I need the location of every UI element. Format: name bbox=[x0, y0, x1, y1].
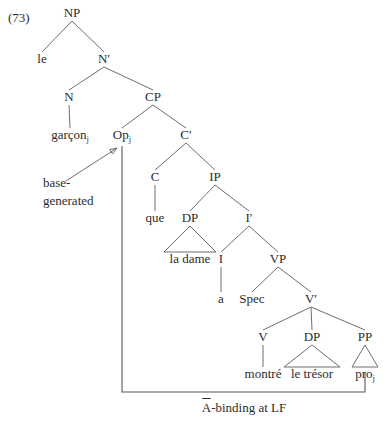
triangle-dp2 bbox=[284, 345, 340, 367]
tree-node-v: V bbox=[258, 329, 268, 344]
branch-cbar-to-c bbox=[155, 143, 186, 170]
tree-node-c: C bbox=[151, 169, 160, 184]
node-label-text: C bbox=[151, 169, 160, 184]
tree-node-i: I bbox=[219, 251, 223, 266]
binding-caption: A-binding at LF bbox=[202, 400, 287, 415]
tree-node-np: NP bbox=[64, 5, 81, 20]
base-generated-arrowhead bbox=[110, 148, 117, 154]
node-label-text: la dame bbox=[170, 251, 211, 266]
branch-cp-to-op bbox=[122, 105, 153, 128]
tree-node-ladame: la dame bbox=[170, 251, 211, 266]
node-label-text: IP bbox=[209, 169, 221, 184]
node-label-text: V bbox=[258, 329, 268, 344]
triangle-layer bbox=[164, 226, 378, 367]
node-subscript: j bbox=[86, 134, 89, 144]
tree-node-op: Opj bbox=[113, 127, 131, 144]
caption-rest: -binding at LF bbox=[211, 400, 286, 415]
tree-node-letresor: le trésor bbox=[291, 366, 334, 381]
tree-node-vp: VP bbox=[270, 251, 287, 266]
tree-node-que: que bbox=[146, 210, 165, 225]
branch-vbar-to-v bbox=[263, 307, 311, 330]
branch-np-to-le bbox=[42, 21, 72, 52]
branch-ip-to-dp1 bbox=[190, 185, 215, 211]
node-label-text: N bbox=[64, 89, 74, 104]
node-label-text: a bbox=[218, 291, 224, 306]
node-label-text: I′ bbox=[245, 210, 252, 225]
tree-node-spec: Spec bbox=[239, 291, 265, 306]
branch-ibar-to-i bbox=[221, 226, 249, 252]
node-label-text: NP bbox=[64, 5, 81, 20]
branch-nbar-to-n bbox=[69, 67, 104, 90]
node-label-text: VP bbox=[270, 251, 287, 266]
branch-ibar-to-vp bbox=[249, 226, 278, 252]
node-label-text: Op bbox=[113, 127, 129, 142]
tree-node-le: le bbox=[37, 51, 47, 66]
node-label-text: PP bbox=[358, 329, 372, 344]
branch-vp-to-vbar bbox=[278, 267, 311, 292]
branch-n-to-garcon bbox=[69, 105, 70, 128]
triangle-pp bbox=[352, 345, 378, 367]
branch-vbar-to-dp2 bbox=[311, 307, 312, 330]
triangle-dp1 bbox=[164, 226, 216, 252]
node-label-text: pro bbox=[355, 366, 372, 381]
node-label-text: DP bbox=[304, 329, 321, 344]
tree-node-a: a bbox=[218, 291, 224, 306]
node-subscript: j bbox=[128, 134, 131, 144]
branch-np-to-nbar bbox=[72, 21, 104, 52]
base-generated-label-line1: base- bbox=[43, 175, 70, 190]
node-label-text: CP bbox=[145, 89, 161, 104]
base-generated-arrow bbox=[66, 148, 117, 181]
node-label-text: garçon bbox=[51, 127, 87, 142]
branch-nbar-to-cp bbox=[104, 67, 153, 90]
branch-ip-to-ibar bbox=[215, 185, 249, 211]
tree-node-cbar: C′ bbox=[180, 127, 192, 142]
node-subscript: j bbox=[371, 373, 374, 383]
branch-cp-to-cbar bbox=[153, 105, 186, 128]
branch-vbar-to-pp bbox=[311, 307, 365, 330]
tree-node-montre: montré bbox=[245, 366, 282, 381]
node-label-text: I bbox=[219, 251, 223, 266]
node-label-text: C′ bbox=[180, 127, 192, 142]
tree-node-cp: CP bbox=[145, 89, 161, 104]
tree-node-vbar: V′ bbox=[305, 291, 317, 306]
node-label-text: N′ bbox=[98, 51, 110, 66]
base-generated-label-line2: generated bbox=[43, 193, 94, 208]
tree-node-ip: IP bbox=[209, 169, 221, 184]
branch-cbar-to-ip bbox=[186, 143, 215, 170]
tree-node-dp2: DP bbox=[304, 329, 321, 344]
example-number: (73) bbox=[8, 10, 30, 25]
tree-node-pp: PP bbox=[358, 329, 372, 344]
syntax-tree-figure: NPleN′NCPgarçonjOpjC′CIPqueDPI′la dameIV… bbox=[0, 0, 389, 422]
node-label-text: le bbox=[37, 51, 47, 66]
node-label-text: que bbox=[146, 210, 165, 225]
tree-node-nbar: N′ bbox=[98, 51, 110, 66]
node-label-text: V′ bbox=[305, 291, 317, 306]
node-label-text: Spec bbox=[239, 291, 265, 306]
tree-node-ibar: I′ bbox=[245, 210, 252, 225]
tree-node-garcon: garçonj bbox=[51, 127, 89, 144]
binding-caption-group: A-binding at LF bbox=[202, 399, 287, 416]
node-label-text: DP bbox=[182, 210, 199, 225]
node-label-text: le trésor bbox=[291, 366, 334, 381]
tree-node-dp1: DP bbox=[182, 210, 199, 225]
branch-vp-to-spec bbox=[252, 267, 278, 292]
tree-node-n: N bbox=[64, 89, 74, 104]
node-label-text: montré bbox=[245, 366, 282, 381]
